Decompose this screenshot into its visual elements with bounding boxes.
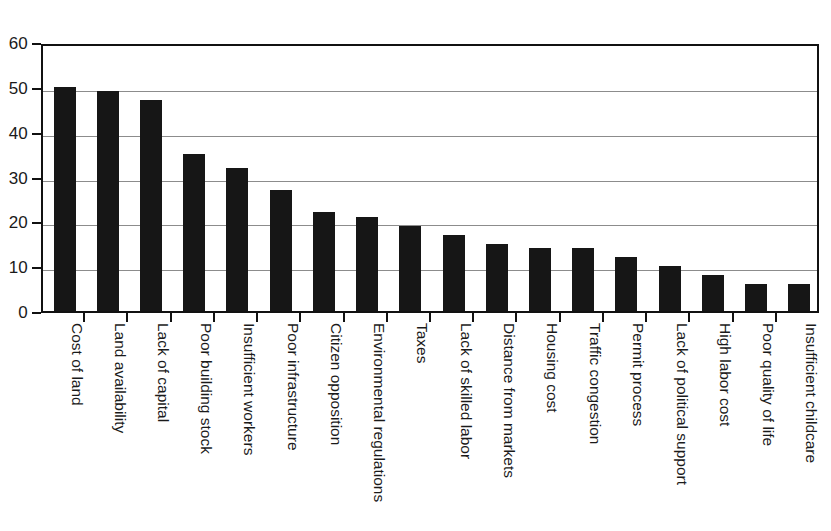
x-label-slot: Taxes <box>387 323 430 531</box>
x-axis-label: Cost of land <box>69 323 85 406</box>
bar[interactable] <box>226 168 248 311</box>
y-tick-label-30: 30 <box>9 169 28 189</box>
bar[interactable] <box>486 244 508 311</box>
y-tick-mark-0 <box>32 312 41 314</box>
x-label-slot: Permit process <box>603 323 646 531</box>
x-tick-mark <box>343 313 345 322</box>
bar[interactable] <box>183 154 205 311</box>
bar[interactable] <box>270 190 292 311</box>
y-axis: 0102030405060 <box>0 0 41 531</box>
y-tick-mark-40 <box>32 133 41 135</box>
x-tick-mark <box>515 313 517 322</box>
y-tick-mark-20 <box>32 222 41 224</box>
x-label-slot: Environmental regulations <box>344 323 387 531</box>
bar-slot <box>475 46 518 311</box>
x-tick-mark <box>256 313 258 322</box>
x-label-slot: Traffic congestion <box>560 323 603 531</box>
bar[interactable] <box>313 212 335 311</box>
bar-slot <box>346 46 389 311</box>
x-label-slot: Cost of land <box>41 323 84 531</box>
x-label-slot: High labor cost <box>689 323 732 531</box>
bar[interactable] <box>54 87 76 311</box>
bar-slot <box>216 46 259 311</box>
y-tick-mark-10 <box>32 267 41 269</box>
y-tick-label-10: 10 <box>9 258 28 278</box>
x-label-slot: Housing cost <box>516 323 559 531</box>
bar-slot <box>302 46 345 311</box>
x-label-slot: Lack of skilled labor <box>430 323 473 531</box>
bar[interactable] <box>97 91 119 311</box>
y-tick-label-40: 40 <box>9 124 28 144</box>
bar[interactable] <box>443 235 465 311</box>
x-label-slot: Insufficient childcare <box>776 323 819 531</box>
x-label-slot: Lack of political support <box>646 323 689 531</box>
x-tick-mark <box>645 313 647 322</box>
bar-slot <box>518 46 561 311</box>
bar-slot <box>173 46 216 311</box>
y-tick-mark-50 <box>32 88 41 90</box>
bar[interactable] <box>399 226 421 311</box>
x-tick-mark <box>126 313 128 322</box>
bar[interactable] <box>529 248 551 311</box>
bar-slot <box>735 46 778 311</box>
y-tick-mark-30 <box>32 178 41 180</box>
bar[interactable] <box>356 217 378 311</box>
y-tick-label-50: 50 <box>9 79 28 99</box>
bar-slot <box>389 46 432 311</box>
plot-area <box>41 44 819 313</box>
x-tick-mark <box>602 313 604 322</box>
x-label-slot: Insufficient workers <box>214 323 257 531</box>
x-tick-mark <box>83 313 85 322</box>
x-tick-mark <box>732 313 734 322</box>
x-label-slot: Distance from markets <box>473 323 516 531</box>
x-axis-labels: Cost of landLand availabilityLack of cap… <box>41 323 819 531</box>
x-label-slot: Poor building stock <box>171 323 214 531</box>
x-axis-label: Permit process <box>630 323 646 426</box>
bar[interactable] <box>140 100 162 311</box>
bar-slot <box>86 46 129 311</box>
bar[interactable] <box>702 275 724 311</box>
bar-slot <box>648 46 691 311</box>
x-label-slot: Citizen opposition <box>300 323 343 531</box>
x-label-slot: Land availability <box>84 323 127 531</box>
y-tick-label-0: 0 <box>18 303 28 323</box>
x-axis-label: Poor quality of life <box>760 323 776 446</box>
x-axis-label: Poor infrastructure <box>285 323 301 451</box>
bar[interactable] <box>659 266 681 311</box>
x-tick-mark <box>429 313 431 322</box>
bar[interactable] <box>615 257 637 311</box>
x-axis-label: Traffic congestion <box>587 323 603 444</box>
bar-slot <box>778 46 821 311</box>
x-tick-mark <box>775 313 777 322</box>
bar-chart: 0102030405060 Cost of landLand availabil… <box>0 0 831 531</box>
x-tick-mark <box>213 313 215 322</box>
x-axis-label: Citizen opposition <box>328 323 344 445</box>
x-tick-mark <box>386 313 388 322</box>
bar[interactable] <box>572 248 594 311</box>
x-tick-mark <box>170 313 172 322</box>
y-tick-mark-60 <box>32 43 41 45</box>
bar[interactable] <box>788 284 810 311</box>
bar-slot <box>562 46 605 311</box>
bar-slot <box>432 46 475 311</box>
x-axis-label: Housing cost <box>544 323 560 413</box>
x-axis-label: Lack of skilled labor <box>458 323 474 459</box>
x-axis-label: Land availability <box>112 323 128 433</box>
bar-slot <box>259 46 302 311</box>
x-axis-label: Lack of political support <box>674 323 690 485</box>
bar[interactable] <box>745 284 767 311</box>
x-axis-label: Poor building stock <box>198 323 214 454</box>
x-tick-mark <box>299 313 301 322</box>
bar-slot <box>43 46 86 311</box>
y-tick-label-60: 60 <box>9 34 28 54</box>
x-axis-label: Environmental regulations <box>371 323 387 502</box>
x-label-slot: Lack of capital <box>127 323 170 531</box>
bar-slot <box>129 46 172 311</box>
x-axis-label: Lack of capital <box>155 323 171 422</box>
bars-layer <box>43 46 817 311</box>
x-label-slot: Poor infrastructure <box>257 323 300 531</box>
x-axis-label: High labor cost <box>717 323 733 426</box>
x-axis-ticks <box>41 313 819 323</box>
x-tick-mark <box>472 313 474 322</box>
bar-slot <box>691 46 734 311</box>
